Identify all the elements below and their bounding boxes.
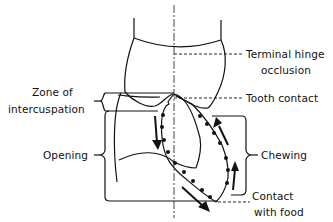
chewing-cycle-diagram: Terminal hinge occlusion Tooth contact Z… (0, 0, 333, 222)
contact-with-food-label: Contact (252, 190, 294, 202)
opening-arrow-icon (152, 116, 162, 150)
chewing-up-arrow-icon (213, 117, 228, 145)
terminal-hinge-label-2: occlusion (261, 64, 311, 76)
zone-of-intercuspation-label-2: intercuspation (8, 103, 85, 115)
descent-arrow-icon (182, 187, 210, 212)
tooth-contact-label: Tooth contact (245, 92, 318, 104)
contact-with-food-label-2: with food (254, 206, 304, 218)
closing-path (176, 96, 230, 202)
terminal-hinge-label: Terminal hinge (245, 48, 324, 60)
opening-label: Opening (43, 149, 88, 161)
chewing-up-arrow-2-icon (231, 161, 239, 190)
opening-path (160, 95, 216, 202)
zone-of-intercuspation-label: Zone of (32, 86, 73, 98)
chewing-label: Chewing (261, 149, 307, 161)
